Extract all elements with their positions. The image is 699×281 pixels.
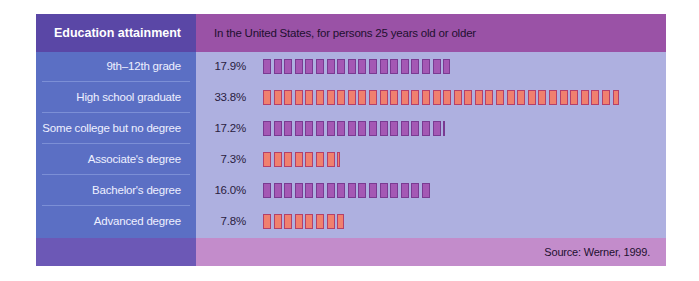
percentage-value: 7.8% <box>196 207 252 235</box>
bar-segment-partial <box>613 90 619 105</box>
bar-segment <box>274 121 282 136</box>
bar-segment <box>433 90 441 105</box>
bar-segment <box>284 90 292 105</box>
bar-segment <box>380 121 388 136</box>
bar-segment <box>358 183 366 198</box>
bar-segment <box>316 59 324 74</box>
bar-segment <box>358 90 366 105</box>
category-label: Some college but no degree <box>36 114 196 142</box>
category-label: 9th–12th grade <box>36 52 196 80</box>
table-row: 9th–12th grade17.9% <box>36 52 666 80</box>
bar-segment <box>369 183 377 198</box>
bar-segment <box>549 90 557 105</box>
percentage-value: 7.3% <box>196 145 252 173</box>
bar-segment <box>390 121 398 136</box>
bar-segment <box>369 121 377 136</box>
bar-segment <box>380 59 388 74</box>
percentage-value: 33.8% <box>196 83 252 111</box>
bar-segment <box>507 90 515 105</box>
chart-title: Education attainment <box>36 14 196 52</box>
bar-segment <box>401 183 409 198</box>
bar-segment <box>284 183 292 198</box>
bar <box>263 59 450 75</box>
table-row: High school graduate33.8% <box>36 83 666 111</box>
bar-segment <box>401 59 409 74</box>
bar-segment <box>316 121 324 136</box>
bar-segment <box>496 90 504 105</box>
bar-segment <box>475 90 483 105</box>
bar-segment <box>316 183 324 198</box>
bar-segment <box>380 183 388 198</box>
bar-segment <box>348 121 356 136</box>
category-label: Associate's degree <box>36 145 196 173</box>
bar-segment <box>327 214 335 229</box>
bar <box>263 121 445 137</box>
bar-segment <box>358 121 366 136</box>
bar-segment <box>295 90 303 105</box>
bar-segment <box>305 183 313 198</box>
bar-segment <box>316 152 324 167</box>
bar-segment <box>538 90 546 105</box>
bar-segment <box>390 59 398 74</box>
bar-segment <box>348 59 356 74</box>
bar-segment <box>411 90 419 105</box>
bar-segment <box>454 90 462 105</box>
bar-segment <box>263 59 271 74</box>
chart-subtitle: In the United States, for persons 25 yea… <box>196 14 666 52</box>
bar-segment <box>263 121 271 136</box>
bar-segment <box>422 90 430 105</box>
bar-segment <box>358 59 366 74</box>
bar-segment <box>570 90 578 105</box>
bar-segment <box>305 121 313 136</box>
table-row: Advanced degree7.8% <box>36 207 666 235</box>
bar-segment <box>422 121 430 136</box>
bar-segment <box>327 90 335 105</box>
bar-segment <box>433 121 441 136</box>
bar <box>263 152 340 168</box>
source-note: Source: Werner, 1999. <box>196 238 666 266</box>
bar-segment <box>348 90 356 105</box>
bar-segment <box>274 214 282 229</box>
bar-segment <box>305 90 313 105</box>
bar-segment <box>327 183 335 198</box>
bar-segment <box>274 90 282 105</box>
bar-segment-partial <box>337 214 343 229</box>
bar-segment <box>274 183 282 198</box>
row-divider <box>42 174 190 175</box>
bar-segment <box>263 214 271 229</box>
bar-segment <box>316 214 324 229</box>
bar-segment <box>305 59 313 74</box>
bar-segment <box>274 59 282 74</box>
bar-segment <box>411 121 419 136</box>
bar-segment <box>263 152 271 167</box>
bar-segment <box>327 121 335 136</box>
bar-segment <box>327 59 335 74</box>
bar-segment <box>305 214 313 229</box>
bar-segment <box>263 90 271 105</box>
bar-segment <box>284 152 292 167</box>
bar-segment <box>305 152 313 167</box>
bar-segment <box>411 183 419 198</box>
bar-segment <box>560 90 568 105</box>
bar-segment <box>369 59 377 74</box>
education-attainment-chart: Education attainment In the United State… <box>36 14 666 266</box>
bar-segment <box>327 152 335 167</box>
percentage-value: 17.2% <box>196 114 252 142</box>
category-label: Bachelor's degree <box>36 176 196 204</box>
bar-segment <box>369 90 377 105</box>
bar-segment <box>390 183 398 198</box>
bar-segment <box>464 90 472 105</box>
bar-segment <box>337 90 345 105</box>
bar-segment <box>485 90 493 105</box>
bar-segment <box>295 59 303 74</box>
bar-segment <box>284 59 292 74</box>
bar-segment <box>295 121 303 136</box>
bar-segment <box>295 214 303 229</box>
bar-segment <box>528 90 536 105</box>
bar-segment <box>443 90 451 105</box>
bar-segment <box>591 90 599 105</box>
row-divider <box>42 81 190 82</box>
bar-segment-partial <box>443 59 450 74</box>
bar-segment <box>274 152 282 167</box>
bar-segment <box>337 183 345 198</box>
